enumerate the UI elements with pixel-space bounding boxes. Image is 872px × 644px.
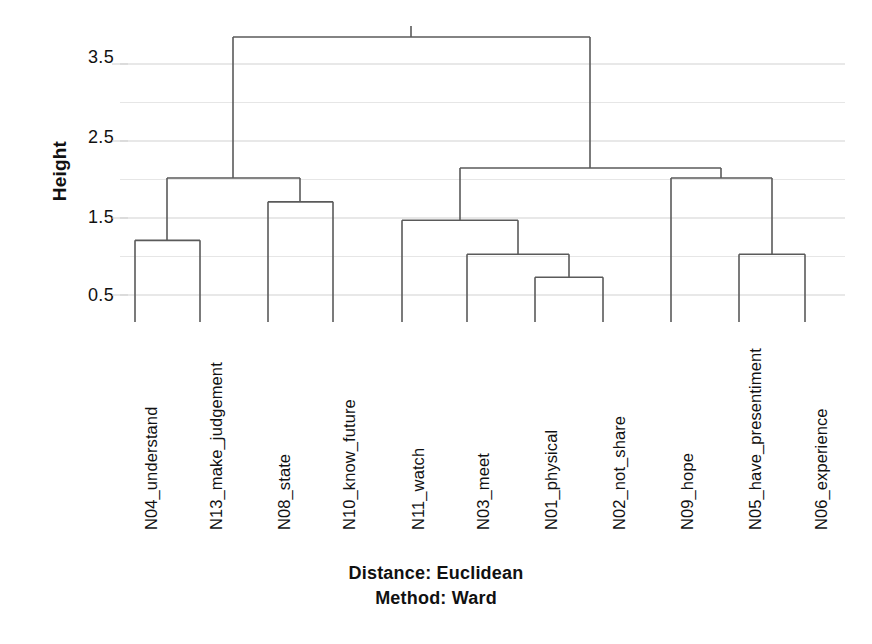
leaf-label: N13_make_judgement	[207, 362, 226, 530]
leaf-label: N10_know_future	[340, 399, 359, 530]
dendrogram-link	[402, 220, 518, 295]
dendrogram-link	[135, 240, 200, 295]
leaf-label: N08_state	[275, 454, 294, 530]
leaf-label: N01_physical	[542, 430, 561, 530]
dendrogram-link	[535, 277, 603, 295]
dendrogram-link	[167, 178, 300, 240]
dendrogram-links-group	[135, 26, 805, 322]
leaf-label: N09_hope	[678, 453, 697, 530]
dendrogram-canvas	[0, 0, 872, 644]
dendrogram-link	[467, 254, 569, 295]
caption-method: Method: Ward	[0, 588, 872, 609]
leaf-label: N06_experience	[812, 408, 831, 530]
dendrogram-plot: Height 3.5 2.5 1.5 0.5 N04_understandN13…	[0, 0, 872, 644]
leaf-label: N03_meet	[474, 453, 493, 530]
gridlines-group	[120, 64, 845, 295]
dendrogram-link	[233, 37, 590, 178]
leaf-label: N04_understand	[142, 407, 161, 530]
leaf-label: N02_not_share	[610, 416, 629, 530]
dendrogram-link	[671, 178, 772, 295]
leaf-label: N11_watch	[409, 448, 428, 530]
dendrogram-link	[739, 254, 805, 295]
leaf-label: N05_have_presentiment	[746, 348, 765, 530]
dendrogram-link	[460, 168, 721, 220]
caption-distance: Distance: Euclidean	[0, 563, 872, 584]
dendrogram-link	[268, 202, 333, 295]
